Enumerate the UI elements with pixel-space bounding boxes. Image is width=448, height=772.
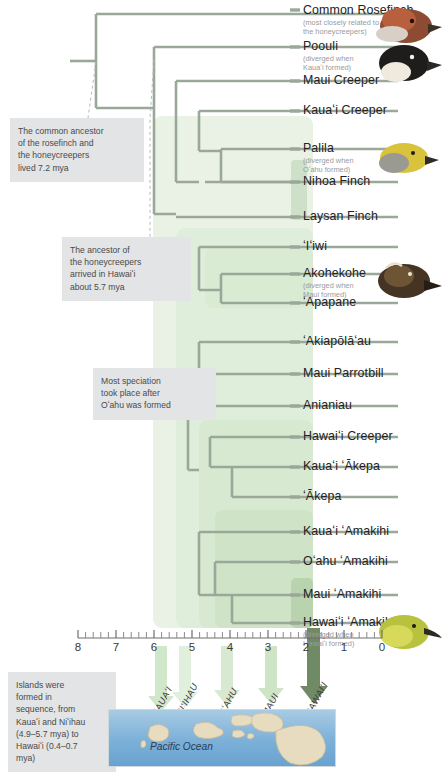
island-maui: [252, 713, 284, 732]
ocean-label: Pacific Ocean: [150, 741, 213, 752]
island-oahu: [193, 722, 223, 738]
island-kahoolawe: [247, 733, 254, 739]
island-lanai: [232, 730, 245, 738]
island-hawaii: [276, 725, 326, 765]
island-kauai: [148, 724, 169, 741]
island-landmasses: [141, 713, 326, 765]
island-niihau: [141, 740, 146, 747]
